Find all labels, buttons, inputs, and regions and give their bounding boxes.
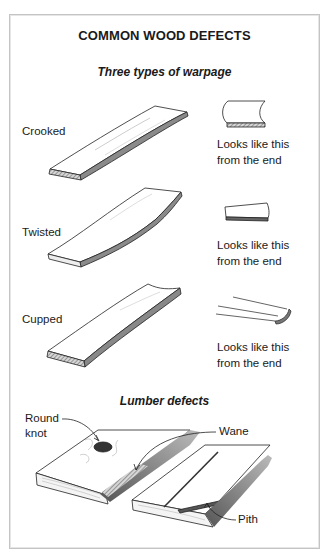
twisted-board-drawing	[48, 188, 182, 267]
cupped-end-view	[216, 297, 291, 324]
twisted-end-view	[225, 203, 269, 221]
crooked-board-drawing	[49, 106, 188, 180]
crooked-end-view	[223, 101, 265, 127]
cupped-board-drawing	[47, 284, 181, 367]
round-knot-mark	[94, 442, 112, 452]
illustration-layer	[0, 0, 329, 556]
